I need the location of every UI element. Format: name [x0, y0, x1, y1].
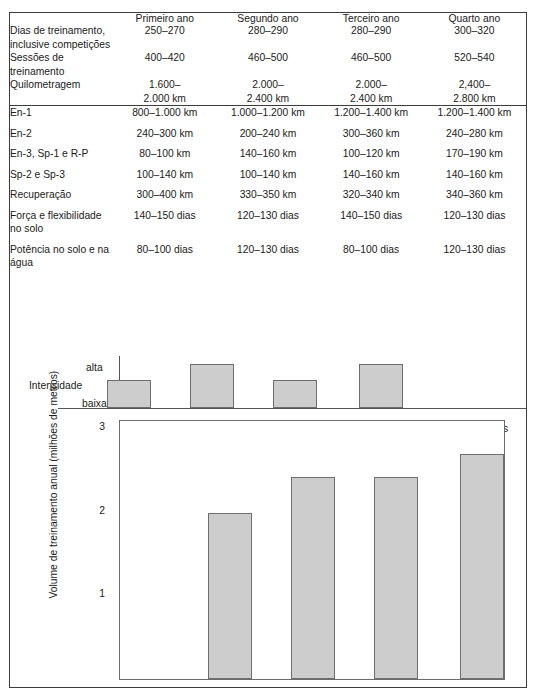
- table-cell: 460–500: [320, 51, 423, 78]
- table-row: Sessões de treinamento 400–420 460–500 4…: [10, 51, 526, 78]
- table-cell: 120–130 dias: [216, 202, 319, 236]
- table-cell: 2.000– 2.400 km: [320, 78, 423, 106]
- training-parameters-table-block: Primeiro ano Segundo ano Terceiro ano Qu…: [10, 13, 526, 270]
- row-label: Sessões de treinamento: [10, 51, 113, 78]
- volume-y-tick-label: 1: [85, 588, 105, 599]
- row-label: En-2: [10, 120, 113, 141]
- table-row: En-2 240–300 km 200–240 km 300–360 km 24…: [10, 120, 526, 141]
- training-parameters-table: Primeiro ano Segundo ano Terceiro ano Qu…: [10, 13, 526, 270]
- table-cell: 520–540: [423, 51, 526, 78]
- table-cell: 170–190 km: [423, 140, 526, 161]
- table-cell: 280–290: [216, 24, 319, 51]
- intensity-ytick-baixa: baixa: [82, 398, 107, 409]
- row-label: Dias de treinamento, inclusive competiçõ…: [10, 24, 113, 51]
- volume-y-axis-title: Volume de treinamento anual (milhões de …: [48, 381, 59, 599]
- volume-bar: [374, 477, 418, 679]
- figure-page: Primeiro ano Segundo ano Terceiro ano Qu…: [0, 0, 536, 700]
- row-label: Quilometragem: [10, 78, 113, 106]
- column-header-primeiro-ano: Primeiro ano: [113, 13, 216, 24]
- table-cell: 320–340 km: [320, 181, 423, 202]
- table-cell: 240–300 km: [113, 120, 216, 141]
- table-cell: 250–270: [113, 24, 216, 51]
- table-cell: 140–150 dias: [113, 202, 216, 236]
- row-label: Potência no solo e na água: [10, 236, 113, 270]
- volume-bar: [291, 477, 335, 679]
- table-cell: 80–100 dias: [113, 236, 216, 270]
- table-cell: 1.200–1.400 km: [320, 106, 423, 120]
- table-cell: 80–100 km: [113, 140, 216, 161]
- column-header-terceiro-ano: Terceiro ano: [320, 13, 423, 24]
- table-cell: 140–150 dias: [320, 202, 423, 236]
- table-cell: 330–350 km: [216, 181, 319, 202]
- table-cell: 120–130 dias: [216, 236, 319, 270]
- table-cell: 460–500: [216, 51, 319, 78]
- table-row: En-3, Sp-1 e R-P 80–100 km 140–160 km 10…: [10, 140, 526, 161]
- table-cell: 200–240 km: [216, 120, 319, 141]
- table-cell: 120–130 dias: [423, 202, 526, 236]
- table-cell: 100–140 km: [113, 161, 216, 182]
- intensity-x-axis-line: [58, 408, 526, 409]
- row-label: Recuperação: [10, 181, 113, 202]
- table-corner-blank: [10, 13, 113, 24]
- intensity-bar: [107, 380, 151, 408]
- table-cell: 1.000–1.200 km: [216, 106, 319, 120]
- table-row: Dias de treinamento, inclusive competiçõ…: [10, 24, 526, 51]
- row-label: Força e flexibilidade no solo: [10, 202, 113, 236]
- volume-chart: Volume de treinamento anual (milhões de …: [10, 412, 526, 686]
- table-cell: 300–320: [423, 24, 526, 51]
- table-cell: 240–280 km: [423, 120, 526, 141]
- table-cell: 140–160 km: [320, 161, 423, 182]
- table-cell: 340–360 km: [423, 181, 526, 202]
- table-cell: 2.000– 2.400 km: [216, 78, 319, 106]
- volume-bar: [460, 454, 504, 679]
- volume-y-tick-label: 2: [85, 505, 105, 516]
- table-cell: 1.600– 2.000 km: [113, 78, 216, 106]
- table-cell: 140–160 km: [423, 161, 526, 182]
- table-row: Recuperação 300–400 km 330–350 km 320–34…: [10, 181, 526, 202]
- row-label: Sp-2 e Sp-3: [10, 161, 113, 182]
- table-row: Força e flexibilidade no solo 140–150 di…: [10, 202, 526, 236]
- table-cell: 400–420: [113, 51, 216, 78]
- column-header-segundo-ano: Segundo ano: [216, 13, 319, 24]
- table-row: Potência no solo e na água 80–100 dias 1…: [10, 236, 526, 270]
- table-body: Dias de treinamento, inclusive competiçõ…: [10, 24, 526, 270]
- table-cell: 100–140 km: [216, 161, 319, 182]
- table-cell: 120–130 dias: [423, 236, 526, 270]
- intensity-bar: [190, 364, 234, 408]
- table-row: Sp-2 e Sp-3 100–140 km 100–140 km 140–16…: [10, 161, 526, 182]
- row-label: En-3, Sp-1 e R-P: [10, 140, 113, 161]
- table-header-row: Primeiro ano Segundo ano Terceiro ano Qu…: [10, 13, 526, 24]
- table-cell: 300–360 km: [320, 120, 423, 141]
- volume-bar: [208, 513, 252, 679]
- intensity-ytick-alta: alta: [86, 362, 103, 373]
- table-cell: 140–160 km: [216, 140, 319, 161]
- table-cell: 2,400– 2.800 km: [423, 78, 526, 106]
- row-label: En-1: [10, 106, 113, 120]
- table-cell: 100–120 km: [320, 140, 423, 161]
- table-head: Primeiro ano Segundo ano Terceiro ano Qu…: [10, 13, 526, 24]
- column-header-quarto-ano: Quarto ano: [423, 13, 526, 24]
- intensity-chart: alta baixa Intensidade: [10, 346, 526, 412]
- table-cell: 800–1.000 km: [113, 106, 216, 120]
- table-row: Quilometragem 1.600– 2.000 km 2.000– 2.4…: [10, 78, 526, 106]
- table-cell: 1.200–1.400 km: [423, 106, 526, 120]
- table-cell: 280–290: [320, 24, 423, 51]
- intensity-bar: [359, 364, 403, 408]
- volume-plot-area: [119, 420, 505, 680]
- volume-y-tick-label: 3: [85, 421, 105, 432]
- table-cell: 300–400 km: [113, 181, 216, 202]
- intensity-bar: [273, 380, 317, 408]
- table-row: En-1 800–1.000 km 1.000–1.200 km 1.200–1…: [10, 106, 526, 120]
- table-cell: 80–100 dias: [320, 236, 423, 270]
